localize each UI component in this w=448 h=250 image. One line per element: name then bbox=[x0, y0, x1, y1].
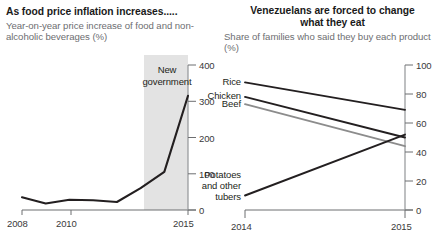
series-label-potatoes-line3: tubers bbox=[181, 191, 241, 202]
left-y-tick-label-200: 200 bbox=[199, 133, 215, 144]
left-x-tick-label-2015: 2015 bbox=[173, 218, 194, 229]
right-chart-subtitle: Share of families who said they buy each… bbox=[224, 31, 442, 54]
series-label-potatoes-line1: Potatoes bbox=[181, 169, 241, 180]
left-y-tick-label-0: 0 bbox=[199, 205, 204, 216]
left-y-tick-label-400: 400 bbox=[199, 60, 215, 71]
left-chart-title: As food price inflation increases..... bbox=[6, 6, 218, 18]
right-y-tick-label-20: 20 bbox=[416, 176, 426, 187]
right-chart-title-line1: Venezuelans are forced to change bbox=[217, 5, 448, 17]
left-x-tick-label-2010: 2010 bbox=[56, 218, 77, 229]
new-government-annotation-line1: New bbox=[146, 64, 188, 75]
right-y-tick-label-100: 100 bbox=[416, 60, 432, 71]
series-label-rice: Rice bbox=[185, 76, 241, 87]
right-chart-plot-area: Rice Chicken Beef Potatoes and other tub… bbox=[215, 55, 448, 235]
right-y-tick-label-0: 0 bbox=[416, 205, 421, 216]
right-y-tick-label-60: 60 bbox=[416, 118, 426, 129]
series-line-rice bbox=[245, 82, 405, 110]
right-chart-title-line2: what they eat bbox=[217, 17, 448, 29]
right-x-tick-label-2014: 2014 bbox=[231, 221, 252, 232]
left-chart-subtitle: Year-on-year price increase of food and … bbox=[6, 20, 196, 43]
series-line-beef bbox=[245, 104, 405, 146]
right-x-tick-label-2015: 2015 bbox=[391, 221, 412, 232]
right-y-tick-label-80: 80 bbox=[416, 89, 426, 100]
series-line-chicken bbox=[245, 97, 405, 138]
series-line-potatoes bbox=[245, 135, 405, 196]
chart-panel-food-purchasing-share: Venezuelans are forced to change what th… bbox=[215, 0, 448, 250]
chart-panel-food-price-inflation: As food price inflation increases..... Y… bbox=[0, 0, 224, 250]
series-label-potatoes: Potatoes and other tubers bbox=[181, 169, 241, 202]
series-label-beef: Beef bbox=[185, 98, 241, 109]
right-y-tick-label-40: 40 bbox=[416, 147, 426, 158]
left-x-tick-label-2008: 2008 bbox=[7, 218, 28, 229]
series-label-potatoes-line2: and other bbox=[181, 180, 241, 191]
right-chart-title: Venezuelans are forced to change what th… bbox=[217, 5, 448, 29]
